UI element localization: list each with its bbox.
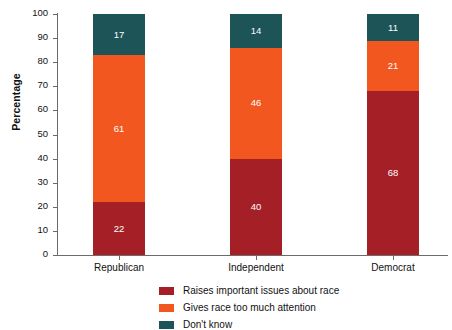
bar-segment-value: 61: [114, 124, 125, 134]
y-axis-tick-label: 90: [37, 31, 48, 42]
x-axis-label: Independent: [196, 262, 316, 273]
y-axis-tick-label: 0: [43, 248, 48, 259]
y-axis-tick-label: 20: [37, 200, 48, 211]
y-axis-tick-label: 50: [37, 128, 48, 139]
chart-legend: Raises important issues about raceGives …: [159, 283, 339, 330]
y-axis-tick-mark: [53, 255, 57, 256]
bar-segment-value: 22: [114, 224, 125, 234]
bar-segment[interactable]: 40: [230, 159, 282, 255]
legend-item[interactable]: Raises important issues about race: [159, 283, 339, 298]
legend-item-label: Don't know: [183, 319, 232, 330]
y-axis-tick-label: 60: [37, 103, 48, 114]
x-axis-tick-mark: [256, 256, 257, 260]
bar-segment[interactable]: 61: [93, 55, 145, 202]
bar-segment[interactable]: 17: [93, 14, 145, 55]
bar-segment-value: 11: [388, 23, 398, 33]
y-axis-tick-label: 10: [37, 224, 48, 235]
y-axis-tick-label: 40: [37, 152, 48, 163]
y-axis-tick-label: 70: [37, 79, 48, 90]
x-axis-label: Republican: [59, 262, 179, 273]
bar-segment-value: 21: [388, 61, 399, 71]
bar-segment[interactable]: 14: [230, 14, 282, 48]
legend-color-swatch: [159, 304, 174, 312]
y-axis-title: Percentage: [10, 52, 22, 152]
plot-area: 176122144640112168: [57, 14, 448, 255]
stacked-bar-chart: Percentage 1009080706050403020100 176122…: [0, 0, 452, 330]
y-axis-tick-label: 80: [37, 55, 48, 66]
bar-segment[interactable]: 11: [367, 14, 419, 41]
legend-color-swatch: [159, 321, 174, 329]
y-axis-tick-label: 30: [37, 176, 48, 187]
x-axis-label: Democrat: [333, 262, 452, 273]
legend-item[interactable]: Don't know: [159, 317, 339, 330]
bar-stack[interactable]: 176122: [93, 14, 145, 255]
legend-item-label: Raises important issues about race: [183, 285, 339, 296]
bar-stack[interactable]: 144640: [230, 14, 282, 255]
bar-segment-value: 46: [251, 98, 262, 108]
legend-item[interactable]: Gives race too much attention: [159, 300, 339, 315]
bar-segment-value: 40: [251, 202, 262, 212]
bar-stack[interactable]: 112168: [367, 14, 419, 255]
x-axis-tick-mark: [119, 256, 120, 260]
bar-segment-value: 17: [114, 30, 125, 40]
bar-segment[interactable]: 68: [367, 91, 419, 255]
legend-item-label: Gives race too much attention: [183, 302, 316, 313]
bar-segment[interactable]: 46: [230, 48, 282, 159]
legend-color-swatch: [159, 287, 174, 295]
x-axis-tick-mark: [393, 256, 394, 260]
y-axis-tick-label: 100: [32, 7, 48, 18]
x-axis-line: [57, 255, 448, 256]
bar-segment-value: 68: [388, 168, 399, 178]
bar-segment[interactable]: 22: [93, 202, 145, 255]
bar-segment[interactable]: 21: [367, 41, 419, 92]
bar-segment-value: 14: [251, 26, 262, 36]
